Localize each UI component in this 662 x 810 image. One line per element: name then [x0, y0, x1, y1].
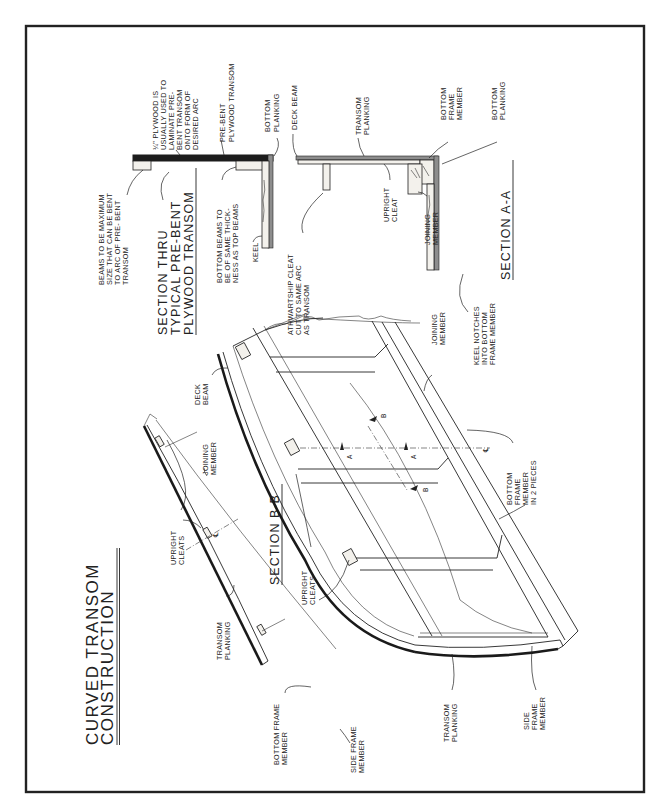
label-prebent-plywood-transom: PRE-BENT PLYWOOD TRANSOM	[218, 63, 236, 155]
svg-text:MEMBER: MEMBER	[431, 212, 440, 245]
svg-text:TRANSOM: TRANSOM	[121, 247, 130, 285]
label-aa-deck-beam: DECK BEAM	[290, 85, 299, 156]
label-bottom-planking-typ: BOTTOM PLANKING	[263, 93, 281, 156]
label-persp-transom-planking: TRANSOM PLANKING	[442, 654, 459, 742]
section-typical-title: SECTION THRU TYPICAL PRE-BENT PLYWOOD TR…	[156, 168, 196, 335]
svg-text:PLANKING: PLANKING	[362, 96, 371, 135]
label-beams: BEAMS TO BE MAXIMUM SIZE THAT CAN BE BEN…	[97, 170, 143, 285]
label-persp-bottom-frame: BOTTOM FRAME MEMBER IN 2 PIECES	[467, 430, 538, 519]
svg-text:KEEL: KEEL	[251, 242, 260, 262]
svg-text:AS TRANSOM: AS TRANSOM	[302, 285, 311, 335]
label-persp-side-frame: SIDE FRAME MEMBER	[522, 646, 547, 730]
label-aa-upright-cleat: UPRIGHT CLEAT	[382, 164, 399, 222]
label-bb-upright-cleats: UPRIGHT CLEATS	[167, 440, 201, 565]
perspective-transom-frame: ℄ A A B B DECK BEAM JOINING MEMBER UPRIG…	[193, 312, 578, 742]
svg-text:IN 2 PIECES: IN 2 PIECES	[529, 460, 538, 505]
label-aa-athwartship-cleat: ATHWARTSHIP CLEAT CUT TO SAME ARC AS TRA…	[286, 193, 323, 335]
svg-text:SECTION A-A: SECTION A-A	[499, 190, 513, 280]
label-aa-keel-notches: KEEL NOTCHES INTO BOTTOM FRAME MEMBER	[459, 274, 497, 365]
aa-transom-planking	[296, 156, 438, 160]
label-bb-transom-planking: TRANSOM PLANKING	[215, 585, 234, 660]
section-typical-prebent: BEAMS TO BE MAXIMUM SIZE THAT CAN BE BEN…	[97, 63, 281, 335]
svg-text:B: B	[380, 414, 387, 418]
keel	[262, 161, 269, 248]
svg-text:PLYWOOD TRANSOM: PLYWOOD TRANSOM	[182, 191, 196, 335]
svg-text:TYPICAL PRE-BENT: TYPICAL PRE-BENT	[169, 201, 183, 335]
svg-text:MEMBER: MEMBER	[438, 312, 447, 345]
section-bb-title: SECTION B-B	[268, 484, 282, 585]
svg-text:NESS AS TOP BEAMS: NESS AS TOP BEAMS	[231, 204, 240, 283]
section-marks: A A B B	[340, 414, 429, 492]
persp-centerline-symbol: ℄	[481, 447, 490, 453]
svg-text:PLANKING: PLANKING	[272, 93, 281, 132]
drawing-title: CURVED TRANSOM CONSTRUCTION	[83, 548, 120, 745]
svg-text:PLANKING: PLANKING	[498, 81, 507, 120]
label-plywood: ¼" PLYWOOD IS USUALLY USED TO LAMINATE P…	[151, 80, 200, 155]
svg-text:B: B	[422, 488, 429, 492]
label-aa-bottom-frame: BOTTOM FRAME MEMBER	[429, 87, 464, 158]
svg-text:BEAM: BEAM	[201, 383, 210, 405]
label-bb-bottom-frame: BOTTOM FRAME MEMBER	[272, 686, 311, 765]
svg-text:MEMBER: MEMBER	[538, 697, 547, 730]
svg-text:PLYWOOD TRANSOM: PLYWOOD TRANSOM	[227, 63, 236, 142]
label-persp-joining-member: JOINING MEMBER	[424, 312, 447, 391]
svg-text:A: A	[410, 454, 417, 459]
aa-athwartship-cleat	[323, 164, 330, 190]
section-bb: ℄ JOINING MEMBER UPRIGHT CLEATS TRANSOM …	[144, 414, 366, 773]
persp-transom-planking	[218, 354, 415, 652]
transom-drawing: CURVED TRANSOM CONSTRUCTION BEAMS TO BE …	[0, 0, 662, 810]
svg-text:MEMBER: MEMBER	[209, 442, 218, 475]
label-bottom-beams: BOTTOM BEAMS TO BE OF SAME THICK- NESS A…	[215, 167, 240, 283]
label-aa-transom-planking: TRANSOM PLANKING	[354, 96, 371, 156]
prebent-plywood-transom	[133, 155, 273, 161]
svg-text:PRE-BENT: PRE-BENT	[218, 103, 227, 142]
label-bb-joining-member: JOINING MEMBER	[201, 442, 218, 476]
svg-text:CLEAT: CLEAT	[390, 198, 399, 222]
bb-centerline-symbol: ℄	[211, 532, 220, 538]
svg-text:MEMBER: MEMBER	[280, 732, 289, 765]
label-keel: KEEL	[251, 236, 262, 262]
svg-text:SECTION THRU: SECTION THRU	[156, 229, 170, 335]
svg-text:CLEATS: CLEATS	[308, 576, 317, 605]
svg-text:FRAME MEMBER: FRAME MEMBER	[488, 303, 497, 365]
svg-text:BOTTOM: BOTTOM	[263, 100, 272, 132]
label-persp-upright-cleats: UPRIGHT CLEATS	[296, 474, 349, 605]
aa-upright-cleat	[298, 160, 420, 164]
label-bb-side-frame: SIDE FRAME MEMBER	[340, 726, 366, 773]
title-line-2: CONSTRUCTION	[98, 590, 117, 745]
svg-text:A: A	[346, 454, 353, 459]
svg-text:CLEATS: CLEATS	[177, 536, 186, 565]
top-beam	[133, 161, 151, 170]
section-aa-title: SECTION A-A	[499, 160, 513, 280]
svg-text:MEMBER: MEMBER	[357, 740, 366, 773]
svg-text:MEMBER: MEMBER	[455, 87, 464, 120]
svg-text:DECK BEAM: DECK BEAM	[290, 85, 299, 130]
svg-text:PLANKING: PLANKING	[223, 621, 232, 660]
svg-text:DESIRED ARC: DESIRED ARC	[191, 98, 200, 150]
drawing-border	[26, 26, 644, 792]
svg-text:PLANKING: PLANKING	[450, 703, 459, 742]
